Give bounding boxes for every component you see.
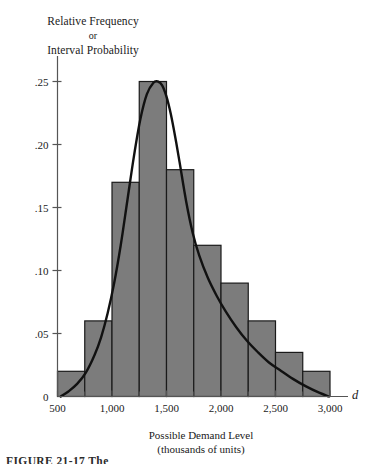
histogram-bar [139, 82, 166, 397]
histogram-bar [194, 245, 221, 396]
histogram-bar [167, 170, 194, 397]
x-axis-tick-label: 500 [49, 402, 66, 414]
y-axis-tick-label: .15 [35, 202, 49, 214]
histogram-bar [221, 283, 248, 396]
y-axis-tick-label: .10 [35, 265, 49, 277]
x-axis-tick-label: 1,500 [154, 402, 179, 414]
histogram-bar [248, 321, 275, 397]
y-axis-tick-label: .05 [35, 328, 49, 340]
x-axis-tick-label: 1,000 [100, 402, 125, 414]
histogram-bar [276, 352, 303, 396]
y-axis-tick-label: .20 [35, 139, 49, 151]
x-axis-title-line2: (thousands of units) [86, 442, 316, 456]
figure-caption: FIGURE 21-17 The [6, 455, 109, 464]
figure-histogram: Relative Frequency or Interval Probabili… [0, 0, 376, 464]
axis-variable-label: d [352, 388, 358, 403]
x-axis-tick-label: 2,000 [209, 402, 234, 414]
x-axis-title-line1: Possible Demand Level [86, 428, 316, 442]
plot-area: 0.05.10.15.20.255001,0001,5002,0002,5003… [0, 0, 376, 464]
y-axis-tick-label: 0 [43, 391, 49, 403]
x-axis-tick-label: 2,500 [263, 402, 288, 414]
x-axis-title: Possible Demand Level (thousands of unit… [86, 428, 316, 456]
x-axis-tick-label: 3,000 [318, 402, 343, 414]
y-axis-tick-label: .25 [35, 76, 49, 88]
histogram-bar [85, 321, 112, 397]
histogram-bar [58, 371, 85, 396]
